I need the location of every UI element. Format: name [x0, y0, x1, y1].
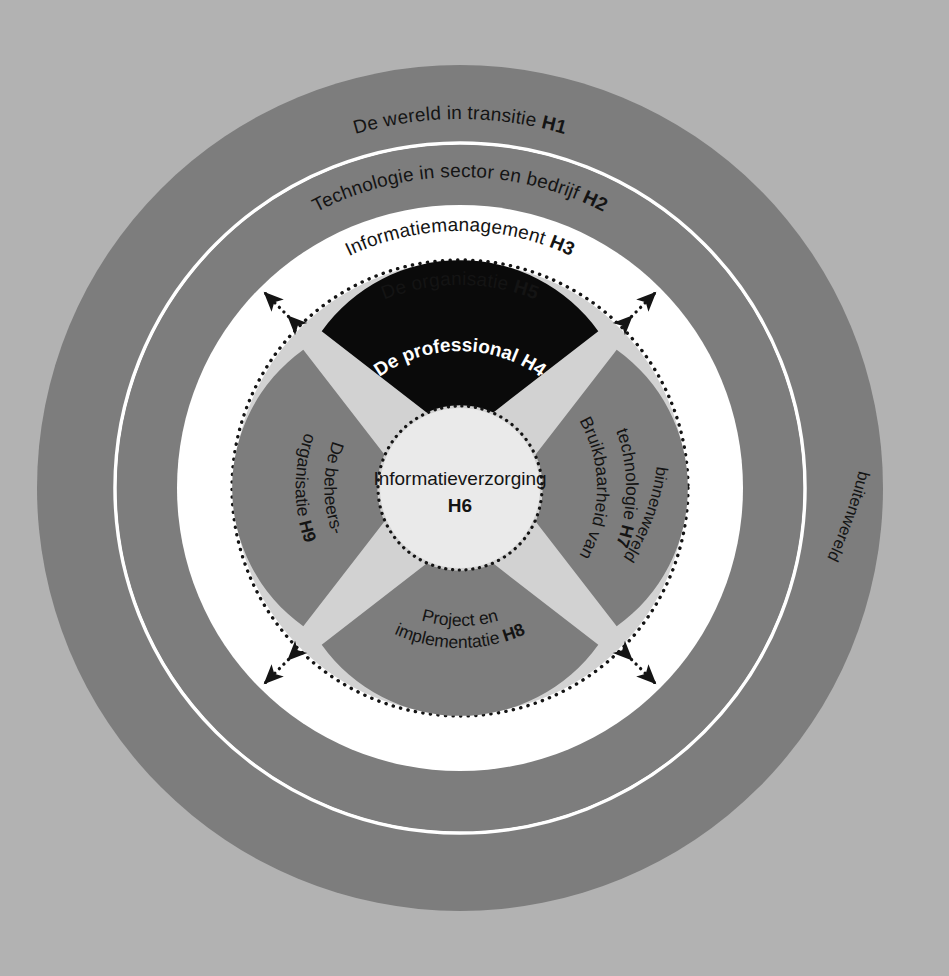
center-h6-chapter: H6 — [448, 495, 472, 516]
center-h6-label: Informatieverzorging — [373, 468, 546, 489]
concentric-ring-diagram: De wereld in transitie H1 Technologie in… — [0, 0, 949, 976]
diagram-canvas: De wereld in transitie H1 Technologie in… — [0, 0, 949, 976]
